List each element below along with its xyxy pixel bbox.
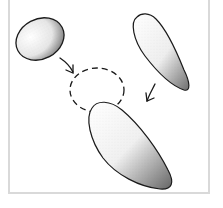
teardrop-result	[89, 102, 172, 189]
teardrop-blob	[133, 14, 189, 90]
arrow-teardrop-to-target	[146, 84, 155, 101]
diagram-canvas	[0, 0, 223, 208]
arrow-egg-to-target	[60, 58, 73, 73]
